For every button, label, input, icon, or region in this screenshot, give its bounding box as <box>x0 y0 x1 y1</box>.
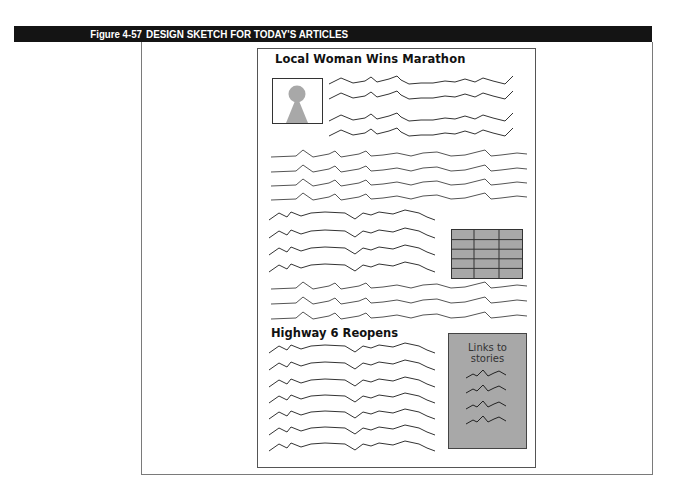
article-1-photo-side-lines <box>329 76 513 136</box>
links-sidebar-squiggles <box>466 370 506 424</box>
article-1-table-side-lines <box>269 210 435 272</box>
article-1-full-lines-1 <box>271 150 527 200</box>
article-2-lines <box>269 343 435 451</box>
article-1-full-lines-2 <box>271 282 527 319</box>
text-line-squiggles <box>0 0 679 491</box>
